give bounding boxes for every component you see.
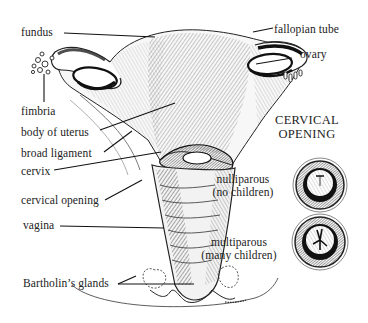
label-ovary: ovary [300,48,327,61]
label-multiparous: multiparous (many children) [190,236,288,262]
inset-title-line1: CERVICAL [262,113,352,127]
label-vagina: vagina [23,219,54,232]
inset-title: CERVICAL OPENING [262,113,352,141]
label-body-of-uterus: body of uterus [21,126,89,139]
multiparous-cervix-illustration [292,214,348,270]
uterus-anatomy-diagram: fundus fimbria body of uterus broad liga… [0,0,368,323]
inset-title-line2: OPENING [262,127,352,141]
label-fimbria: fimbria [21,105,56,118]
label-broad-ligament: broad ligament [21,147,92,160]
left-bartholin-gland [143,269,166,288]
label-fallopian-tube: fallopian tube [274,23,339,36]
label-cervix: cervix [21,165,50,178]
label-nulliparous-line1: nulliparous [200,173,286,186]
label-bartholins-glands: Bartholin’s glands [23,277,109,290]
label-fundus: fundus [21,26,53,39]
cervical-opening-shape [183,152,211,164]
nulliparous-cervix-illustration [293,158,347,212]
label-multiparous-line2: (many children) [190,249,288,262]
label-nulliparous: nulliparous (no children) [200,173,286,199]
right-bartholin-gland [218,266,238,288]
label-nulliparous-line2: (no children) [200,186,286,199]
left-fimbria [31,52,54,74]
label-multiparous-line1: multiparous [190,236,288,249]
label-cervical-opening: cervical opening [21,194,99,207]
